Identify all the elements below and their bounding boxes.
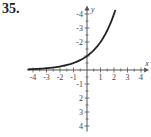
x-tick-label: -4: [30, 73, 37, 82]
x-axis-label: x: [144, 59, 149, 68]
y-axis-arrow-icon: [85, 6, 90, 11]
y-tick-label: -3: [76, 24, 83, 33]
y-tick-label: 3: [79, 108, 83, 117]
x-axis-arrow-icon: [144, 68, 149, 73]
y-tick-label: -1: [76, 80, 83, 89]
x-tick-label: 1: [99, 73, 103, 82]
y-axis-label: y: [90, 5, 95, 14]
x-tick-label: 2: [112, 73, 116, 82]
x-tick-label: -2: [57, 73, 64, 82]
y-tick-label: -2: [76, 38, 83, 47]
y-tick-label: 2: [79, 94, 83, 103]
exponential-graph: -4-3-2-11234432-1-2-3-4xy: [0, 0, 151, 137]
x-tick-label: 4: [139, 73, 143, 82]
x-tick-label: 3: [126, 73, 130, 82]
exponential-curve: [28, 10, 116, 69]
y-tick-label: -4: [76, 10, 83, 19]
x-tick-label: -3: [43, 73, 50, 82]
y-tick-label: 4: [79, 122, 83, 131]
